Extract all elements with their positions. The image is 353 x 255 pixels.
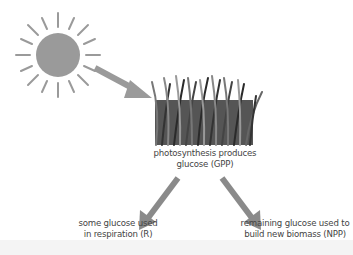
npp-label: remaining glucose used to build new biom… — [240, 218, 350, 240]
arrow-sun-to-grass — [95, 68, 152, 98]
energy-flow-diagram — [0, 0, 353, 255]
bottom-strip — [0, 240, 353, 255]
respiration-label: some glucose used in respiration (R) — [73, 218, 163, 240]
sun-icon — [16, 13, 100, 97]
grass-label: photosynthesis produces glucose (GPP) — [150, 148, 260, 170]
grass-icon — [152, 76, 262, 145]
